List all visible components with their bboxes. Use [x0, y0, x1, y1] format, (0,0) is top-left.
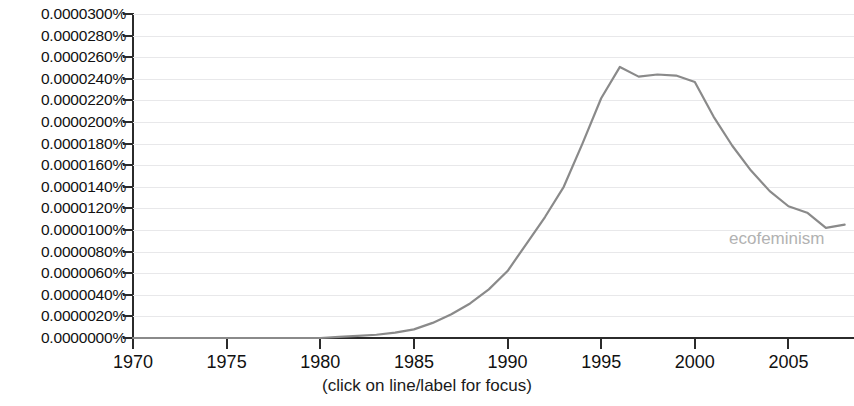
x-axis-tick-label: 1970 — [113, 352, 153, 372]
x-axis-tick-mark — [787, 339, 789, 349]
x-axis-tick-label: 1995 — [581, 352, 621, 372]
x-axis-tick-label: 1985 — [394, 352, 434, 372]
x-axis-tick-mark — [507, 339, 509, 349]
y-axis-tick-label: 0.0000040% — [0, 287, 126, 303]
chart-caption: (click on line/label for focus) — [0, 376, 854, 396]
y-axis-tick-label: 0.0000200% — [0, 114, 126, 130]
x-axis-tick-label: 1975 — [207, 352, 247, 372]
ngram-chart: 0.0000300%0.0000280%0.0000260%0.0000240%… — [0, 0, 854, 406]
series-label-ecofeminism[interactable]: ecofeminism — [729, 230, 824, 248]
x-axis-tick-label: 2000 — [675, 352, 715, 372]
y-axis-tick-label: 0.0000140% — [0, 179, 126, 195]
y-axis-tick-label: 0.0000240% — [0, 71, 126, 87]
y-axis-tick-label: 0.0000260% — [0, 49, 126, 65]
y-axis-tick-label: 0.0000220% — [0, 93, 126, 109]
y-axis-tick-label: 0.0000100% — [0, 222, 126, 238]
y-axis-tick-label: 0.0000060% — [0, 265, 126, 281]
x-axis-tick-mark — [132, 339, 134, 349]
series-line-ecofeminism[interactable] — [133, 14, 854, 338]
y-axis-tick-label: 0.0000080% — [0, 244, 126, 260]
x-axis-tick-mark — [319, 339, 321, 349]
y-axis-tick-label: 0.0000160% — [0, 157, 126, 173]
x-axis-tick-label: 2005 — [768, 352, 808, 372]
y-axis-tick-label: 0.0000020% — [0, 309, 126, 325]
y-axis-tick-label: 0.0000000% — [0, 330, 126, 346]
x-axis-tick-mark — [600, 339, 602, 349]
y-axis-tick-label: 0.0000300% — [0, 6, 126, 22]
x-axis-tick-label: 1980 — [300, 352, 340, 372]
x-axis-tick-mark — [694, 339, 696, 349]
y-axis-tick-label: 0.0000120% — [0, 201, 126, 217]
y-axis-tick-label: 0.0000180% — [0, 136, 126, 152]
x-axis-tick-mark — [413, 339, 415, 349]
y-axis-tick-label: 0.0000280% — [0, 28, 126, 44]
x-axis-tick-label: 1990 — [488, 352, 528, 372]
x-axis-tick-mark — [226, 339, 228, 349]
plot-area — [133, 14, 854, 338]
y-axis-label-group: 0.0000300%0.0000280%0.0000260%0.0000240%… — [0, 0, 126, 352]
